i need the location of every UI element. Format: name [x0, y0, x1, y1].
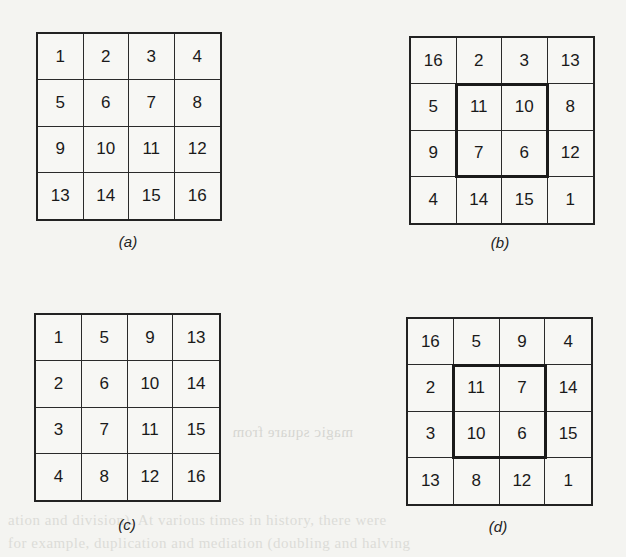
- caption-b: (b): [470, 234, 530, 251]
- grid-cell: 16: [411, 38, 457, 84]
- grid-cell: 1: [38, 34, 84, 80]
- grid-cell: 14: [84, 173, 130, 219]
- grid-cell: 10: [128, 361, 174, 407]
- grid-cell: 5: [38, 80, 84, 126]
- grid-cell: 11: [129, 127, 175, 173]
- grid-cell: 5: [411, 84, 457, 130]
- grid-cell: 16: [173, 454, 219, 500]
- grid-cell: 12: [128, 454, 174, 500]
- grid-cell: 8: [82, 454, 128, 500]
- grid-cell: 10: [454, 412, 500, 458]
- grid-cell: 8: [175, 80, 221, 126]
- grid-cell: 3: [36, 408, 82, 454]
- grid-cell: 4: [175, 34, 221, 80]
- grid-cell: 14: [457, 177, 503, 223]
- caption-a: (a): [98, 233, 158, 250]
- grid-cell: 12: [548, 131, 594, 177]
- grid-cell: 15: [502, 177, 548, 223]
- grid-cell: 16: [175, 173, 221, 219]
- grid-cell: 6: [502, 131, 548, 177]
- grid-cell: 3: [129, 34, 175, 80]
- grid-cell: 7: [129, 80, 175, 126]
- grid-cell: 4: [36, 454, 82, 500]
- grid-cell: 11: [454, 365, 500, 411]
- grid-cell: 9: [128, 315, 174, 361]
- bleed-through-text-2: ation and division). At various times in…: [8, 512, 387, 529]
- grid-cell: 6: [82, 361, 128, 407]
- number-grid-a: 12345678910111213141516: [36, 32, 222, 221]
- grid-cell: 9: [38, 127, 84, 173]
- grid-cell: 16: [408, 319, 454, 365]
- grid-cell: 1: [548, 177, 594, 223]
- grid-cell: 11: [457, 84, 503, 130]
- grid-cell: 5: [454, 319, 500, 365]
- grid-cell: 13: [408, 458, 454, 504]
- number-grid-c: 15913261014371115481216: [34, 313, 221, 502]
- grid-cell: 15: [545, 412, 591, 458]
- grid-cell: 2: [408, 365, 454, 411]
- grid-cell: 2: [36, 361, 82, 407]
- grid-cell: 6: [500, 412, 546, 458]
- bleed-through-text-1: magic square from: [232, 424, 353, 441]
- grid-cell: 9: [411, 131, 457, 177]
- caption-c: (c): [97, 516, 157, 533]
- grid-cell: 3: [408, 412, 454, 458]
- grid-cell: 15: [173, 408, 219, 454]
- number-grid-d: 16594211714310615138121: [406, 317, 593, 506]
- grid-cell: 10: [502, 84, 548, 130]
- grid-cell: 10: [84, 127, 130, 173]
- grid-cell: 13: [38, 173, 84, 219]
- grid-cell: 12: [500, 458, 546, 504]
- grid-cell: 15: [129, 173, 175, 219]
- grid-cell: 3: [502, 38, 548, 84]
- grid-cell: 9: [500, 319, 546, 365]
- grid-cell: 2: [84, 34, 130, 80]
- grid-cell: 7: [82, 408, 128, 454]
- grid-cell: 14: [545, 365, 591, 411]
- grid-cell: 2: [457, 38, 503, 84]
- grid-cell: 8: [454, 458, 500, 504]
- grid-cell: 7: [500, 365, 546, 411]
- grid-cell: 11: [128, 408, 174, 454]
- grid-cell: 6: [84, 80, 130, 126]
- grid-cell: 8: [548, 84, 594, 130]
- grid-cell: 1: [36, 315, 82, 361]
- grid-cell: 7: [457, 131, 503, 177]
- grid-cell: 13: [548, 38, 594, 84]
- caption-d: (d): [468, 518, 528, 535]
- grid-cell: 5: [82, 315, 128, 361]
- grid-cell: 14: [173, 361, 219, 407]
- bleed-through-text-3: for example, duplication and mediation (…: [8, 535, 410, 552]
- grid-cell: 12: [175, 127, 221, 173]
- grid-cell: 4: [411, 177, 457, 223]
- grid-cell: 1: [545, 458, 591, 504]
- number-grid-b: 16231351110897612414151: [409, 36, 595, 225]
- grid-cell: 13: [173, 315, 219, 361]
- grid-cell: 4: [545, 319, 591, 365]
